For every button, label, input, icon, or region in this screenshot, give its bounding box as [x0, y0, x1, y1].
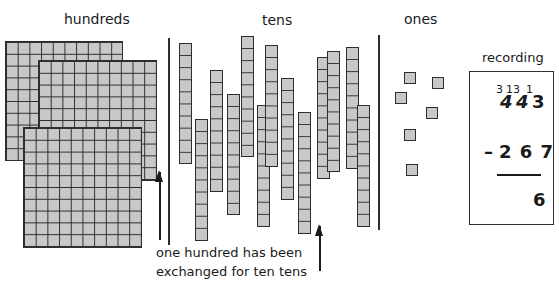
divider-hundreds-tens [168, 38, 170, 245]
caption: one hundred has been exchanged for ten t… [156, 243, 307, 281]
top-hundreds-crossed: 4 [500, 91, 514, 112]
top-ones: 3 [532, 91, 546, 112]
ten-rod [210, 70, 223, 192]
one-cube [406, 164, 418, 176]
one-cube [404, 129, 416, 141]
ten-rod [327, 51, 340, 172]
one-cube [404, 72, 416, 84]
heading-ones: ones [404, 11, 437, 27]
subtract-sign: – [484, 141, 494, 162]
sum-line [497, 174, 541, 176]
ten-rod [241, 36, 254, 157]
ten-rod [227, 94, 240, 215]
caption-line-2: exchanged for ten tens [156, 262, 307, 281]
heading-tens: tens [262, 12, 292, 28]
ten-rod [281, 78, 294, 200]
top-tens-crossed: 4 [516, 91, 530, 112]
divider-tens-ones [378, 35, 380, 230]
ten-rod [195, 119, 208, 241]
arrow-up-icon [159, 172, 161, 240]
one-cube [395, 92, 407, 104]
ten-rod [265, 45, 278, 167]
arrow-up-icon [319, 226, 321, 271]
subtrahend: 2 6 7 [499, 141, 554, 162]
one-cube [426, 107, 438, 119]
caption-line-1: one hundred has been [156, 243, 307, 262]
one-cube [432, 77, 444, 89]
heading-hundreds: hundreds [64, 11, 130, 27]
ten-rod [357, 105, 370, 227]
heading-recording: recording [482, 50, 544, 65]
hundred-flat [23, 127, 142, 248]
ten-rod [179, 43, 192, 164]
result: 6 [533, 189, 547, 210]
ten-rod [298, 112, 311, 234]
